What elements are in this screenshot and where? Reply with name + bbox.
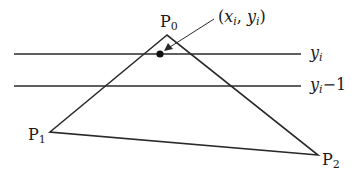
arrowhead-icon bbox=[164, 43, 173, 51]
vertex-label-p0: P0 bbox=[160, 12, 178, 33]
point-label: (xi, yi) bbox=[218, 7, 266, 28]
scanline-diagram: P0 P1 P2 (xi, yi) yi yi−1 bbox=[0, 0, 356, 192]
vertex-label-p2: P2 bbox=[322, 150, 340, 171]
intersection-point bbox=[156, 50, 163, 57]
scanline-label-yi-minus-1: yi−1 bbox=[309, 75, 346, 96]
triangle bbox=[50, 35, 318, 155]
vertex-label-p1: P1 bbox=[28, 125, 46, 146]
scanline-label-yi: yi bbox=[309, 43, 323, 64]
